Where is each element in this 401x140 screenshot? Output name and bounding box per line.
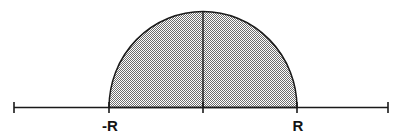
semicircle-figure: -R R (0, 0, 401, 140)
figure-canvas (0, 0, 401, 140)
axis-label-pos-r: R (293, 118, 304, 133)
axis-label-neg-r: -R (102, 118, 118, 133)
